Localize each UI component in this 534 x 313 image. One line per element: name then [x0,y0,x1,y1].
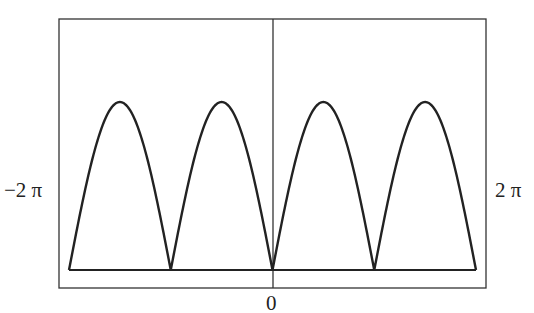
zero-tick-label: 0 [266,293,277,313]
plot-area [0,0,534,313]
x-min-label: −2 π [4,180,42,201]
x-max-label: 2 π [495,180,521,201]
